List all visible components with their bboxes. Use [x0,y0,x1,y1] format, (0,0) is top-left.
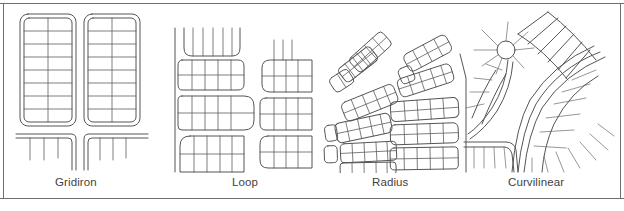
cul-de-sac-circle [497,41,515,59]
caption-radius: Radius [372,176,408,188]
figure-frame-bottom-border [0,198,624,199]
diagram-loop [166,8,318,173]
street-pattern-figure: Gridiron Loop Radius Curvilinear [0,0,624,211]
figure-frame-right-border [620,3,621,199]
caption-gridiron: Gridiron [55,176,97,188]
loop-svg [166,8,318,173]
gridiron-svg [14,8,164,173]
caption-curvilinear: Curvilinear [508,176,564,188]
figure-frame-left-border [3,3,4,199]
diagram-gridiron [14,8,164,173]
diagram-radius [318,8,468,173]
caption-loop: Loop [232,176,258,188]
radius-svg [318,8,468,173]
diagram-curvilinear [462,8,618,173]
curvilinear-svg [462,8,618,173]
figure-frame-top-border [0,3,624,4]
